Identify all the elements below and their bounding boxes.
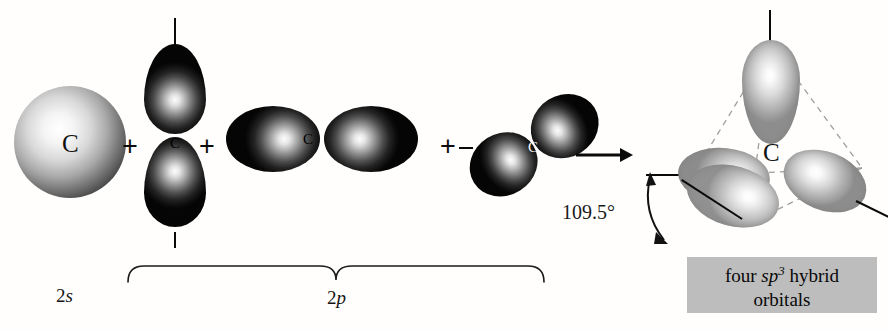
p-diagonal-atom-label: C: [528, 140, 538, 155]
caption-box: four sp3 hybrid orbitals: [687, 257, 877, 313]
s-orbital-atom-label: C: [62, 131, 79, 156]
p-horizontal-lobe-right: [324, 106, 418, 172]
s-sublabel-number: 2: [56, 285, 66, 306]
p-vertical-atom-label: C: [170, 136, 180, 151]
sp3-hybridization-figure: C 2s + C + C + C 2p: [0, 0, 888, 330]
bond-angle-arc: [636, 168, 716, 254]
plus-sign-2: +: [199, 133, 215, 160]
p-vertical-axis-bottom: [174, 232, 176, 248]
bond-angle-label: 109.5°: [562, 202, 615, 222]
p-group-brace: [120, 258, 550, 284]
caption-line-1: four sp3 hybrid: [701, 263, 863, 288]
p-diagonal-axis-left: [459, 147, 473, 149]
p-sublabel-number: 2: [327, 287, 337, 308]
p-sublabel-letter: p: [337, 287, 347, 308]
p-horizontal-atom-label: C: [303, 132, 313, 147]
p-group-sublabel: 2p: [327, 288, 346, 307]
caption-line-2: orbitals: [701, 288, 863, 312]
reaction-arrow: [576, 146, 634, 166]
plus-sign-1: +: [122, 133, 138, 160]
s-orbital-sublabel: 2s: [56, 286, 73, 305]
p-vertical-lobe-upper: [144, 44, 206, 134]
p-orbital-horizontal: [226, 100, 420, 192]
hybrid-center-atom-label: C: [763, 140, 780, 165]
s-sublabel-letter: s: [66, 285, 73, 306]
caption-post: hybrid: [785, 265, 839, 286]
caption-pre: four: [725, 265, 761, 286]
caption-sp: sp: [761, 265, 778, 286]
